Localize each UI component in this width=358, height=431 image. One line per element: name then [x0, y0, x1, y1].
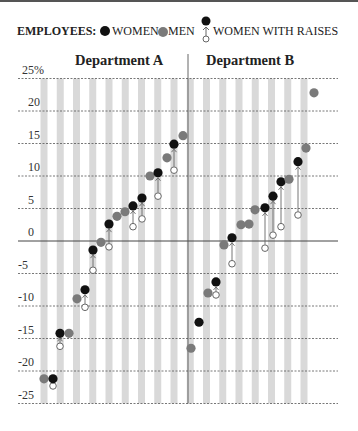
woman-marker: [211, 277, 220, 286]
woman-marker: [169, 140, 178, 149]
scatter-chart: 25%20151050-5-10-15-20-25: [0, 0, 358, 431]
before-raise-marker: [295, 212, 302, 219]
before-raise-marker: [270, 232, 277, 239]
woman-marker: [153, 168, 162, 177]
before-raise-marker: [82, 304, 89, 311]
man-marker: [186, 344, 195, 353]
man-marker: [162, 153, 171, 162]
before-raise-marker: [90, 267, 97, 274]
before-raise-marker: [130, 223, 137, 230]
before-raise-marker: [262, 245, 269, 252]
y-tick-label: -25: [18, 388, 34, 402]
y-tick-label: 5: [28, 193, 34, 207]
man-marker: [301, 143, 310, 152]
man-marker: [284, 175, 293, 184]
man-marker: [250, 205, 259, 214]
woman-marker: [260, 203, 269, 212]
woman-marker: [227, 233, 236, 242]
woman-marker: [128, 201, 137, 210]
before-raise-marker: [171, 167, 178, 174]
man-marker: [203, 288, 212, 297]
man-marker: [39, 374, 48, 383]
man-marker: [72, 294, 81, 303]
man-marker: [120, 207, 129, 216]
woman-marker: [276, 177, 285, 186]
y-tick-label: 10: [28, 160, 40, 174]
man-marker: [219, 240, 228, 249]
man-marker: [64, 329, 73, 338]
y-tick-label: 20: [28, 95, 40, 109]
y-tick-label: -5: [18, 258, 28, 272]
woman-marker: [55, 329, 64, 338]
y-tick-label: -15: [18, 323, 34, 337]
y-tick-label: 0: [28, 225, 34, 239]
man-marker: [244, 220, 253, 229]
woman-marker: [137, 194, 146, 203]
before-raise-marker: [106, 244, 113, 251]
man-marker: [145, 171, 154, 180]
woman-marker: [194, 318, 203, 327]
woman-marker: [268, 192, 277, 201]
man-marker: [309, 88, 318, 97]
woman-marker: [48, 374, 57, 383]
woman-marker: [80, 285, 89, 294]
y-tick-label: -20: [18, 355, 34, 369]
before-raise-marker: [50, 383, 57, 390]
woman-marker: [104, 220, 113, 229]
before-raise-marker: [213, 292, 220, 299]
woman-marker: [293, 157, 302, 166]
man-marker: [96, 238, 105, 247]
woman-marker: [88, 246, 97, 255]
before-raise-marker: [278, 223, 285, 230]
before-raise-marker: [139, 216, 146, 223]
man-marker: [112, 212, 121, 221]
y-tick-label: 25%: [22, 63, 44, 77]
before-raise-marker: [229, 260, 236, 267]
before-raise-marker: [155, 193, 162, 200]
y-tick-label: 15: [28, 128, 40, 142]
y-tick-label: -10: [18, 290, 34, 304]
before-raise-marker: [57, 343, 64, 350]
man-marker: [236, 220, 245, 229]
man-marker: [178, 131, 187, 140]
